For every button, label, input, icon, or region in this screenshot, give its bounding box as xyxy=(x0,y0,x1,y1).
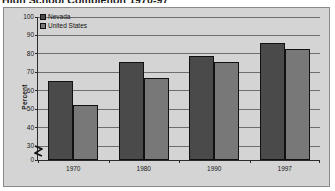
y-axis-tick-label: 60 xyxy=(27,87,34,94)
y-axis-tick-label: 80 xyxy=(27,51,34,58)
bar-nevada-1980[interactable] xyxy=(119,62,144,160)
bar-united-states-1980[interactable] xyxy=(144,78,169,160)
y-axis-break-icon xyxy=(34,145,43,159)
y-axis-tick-mark xyxy=(35,90,38,91)
x-axis-tick-mark xyxy=(179,160,180,163)
y-axis-tick-mark xyxy=(35,17,38,18)
y-axis-tick-label: 30 xyxy=(27,143,34,150)
legend-item-label: Nevada xyxy=(48,14,70,21)
chart-frame: Percent 10090807060504030019701980199019… xyxy=(3,7,330,187)
bar-nevada-1990[interactable] xyxy=(189,56,214,160)
legend-item[interactable]: United States xyxy=(40,22,87,30)
x-axis-tick-mark xyxy=(250,160,251,163)
x-axis-tick-label: 1990 xyxy=(207,166,221,173)
legend-item[interactable]: Nevada xyxy=(40,13,87,21)
chart-legend: NevadaUnited States xyxy=(40,13,87,30)
y-axis-tick-label: 100 xyxy=(23,14,34,21)
y-axis-tick-label: 70 xyxy=(27,69,34,76)
y-axis-tick-label: 40 xyxy=(27,124,34,131)
bar-united-states-1990[interactable] xyxy=(214,62,239,160)
y-axis-tick-label: 90 xyxy=(27,32,34,39)
y-axis-tick-mark xyxy=(35,109,38,110)
x-axis-tick-label: 1970 xyxy=(66,166,80,173)
plot-area: 1009080706050403001970198019901997 xyxy=(37,17,320,161)
x-axis-tick-mark xyxy=(319,160,320,163)
bar-united-states-1997[interactable] xyxy=(285,49,310,160)
y-axis-tick-mark xyxy=(35,72,38,73)
y-axis-tick-mark xyxy=(35,127,38,128)
y-axis-tick-mark xyxy=(35,53,38,54)
x-axis-tick-label: 1980 xyxy=(137,166,151,173)
bar-nevada-1997[interactable] xyxy=(260,43,285,160)
y-axis-tick-label: 50 xyxy=(27,106,34,113)
x-axis-tick-mark xyxy=(109,160,110,163)
chart-inner-panel: Percent 10090807060504030019701980199019… xyxy=(6,10,327,184)
y-axis-tick-mark xyxy=(35,35,38,36)
legend-swatch-icon xyxy=(40,14,46,20)
x-axis-tick-label: 1997 xyxy=(278,166,292,173)
page-title: High School Completion 1970-97 xyxy=(2,0,168,3)
gridline xyxy=(38,35,320,36)
bar-nevada-1970[interactable] xyxy=(48,81,73,160)
legend-item-label: United States xyxy=(48,23,87,30)
bar-united-states-1970[interactable] xyxy=(73,105,98,160)
x-axis-tick-mark xyxy=(38,160,39,163)
legend-swatch-icon xyxy=(40,23,46,29)
